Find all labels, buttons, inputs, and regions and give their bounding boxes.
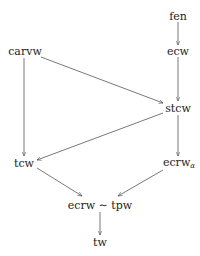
node-ecw: ecw (167, 46, 189, 57)
node-tcw: tcw (14, 158, 34, 169)
node-fen: fen (169, 11, 187, 22)
edge-stcw-tcw (37, 113, 163, 160)
node-ecrw-alpha-subscript: α (190, 162, 195, 170)
edge-tcw-ecrw-tpw (37, 168, 82, 196)
node-tw: tw (93, 237, 107, 248)
edge-carvw-stcw (41, 57, 163, 103)
edges-layer (0, 0, 200, 256)
node-ecrw-tpw: ecrw ∼ tpw (68, 200, 132, 211)
edge-ecrw-alpha-ecrw-tpw (118, 170, 163, 196)
node-carvw: carvw (8, 46, 42, 57)
diagram-canvas: fen ecw carvw stcw tcw ecrwα ecrw ∼ tpw … (0, 0, 200, 256)
node-ecrw-alpha: ecrwα (163, 157, 195, 170)
node-stcw: stcw (165, 103, 191, 114)
node-ecrw-alpha-label: ecrw (163, 156, 190, 169)
